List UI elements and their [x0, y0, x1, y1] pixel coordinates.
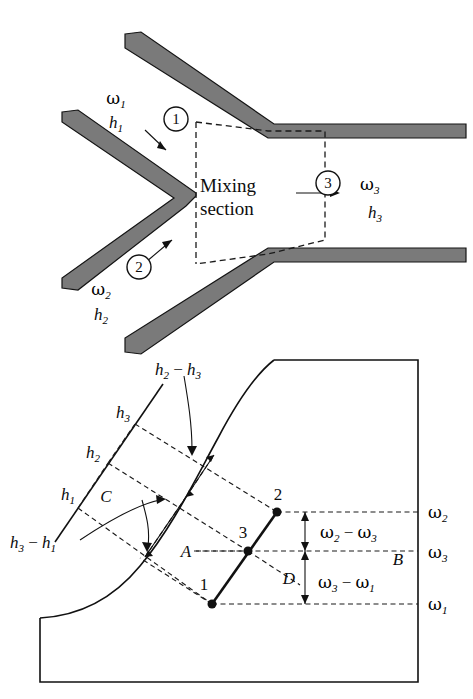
- mixing-duct-diagram: 1 2 3 ω1 h1 ω2 h2 ω3 h3: [62, 32, 466, 354]
- enthalpy-tick-h3: h3: [116, 403, 131, 424]
- state-point-2: [273, 508, 282, 517]
- station-marker-1-label: 1: [172, 111, 180, 127]
- omega-tick-2: ω2: [428, 502, 448, 524]
- h2-minus-h3-leader: [184, 376, 192, 450]
- omega3-minus-omega1-arrow: [301, 551, 309, 604]
- state-point-3: [244, 547, 253, 556]
- h3-minus-h1-leader: [80, 500, 160, 540]
- h2-minus-h3-indicator: [186, 455, 214, 497]
- omega2-minus-omega3-annotation: ω2 − ω3: [320, 522, 377, 544]
- h3-minus-h1-leader-arrow-down: [142, 542, 152, 552]
- state-point-2-label: 2: [274, 485, 283, 504]
- point-B-label: B: [393, 550, 404, 569]
- h3-minus-h1-leader-2: [142, 500, 149, 546]
- state-point-1-label: 1: [200, 575, 209, 594]
- enthalpy-tick-h1: h1: [61, 485, 75, 506]
- psychrometric-chart: 1 3 2 A B C D h1 h2 h3 ω2 ω3 ω1 ω2 − ω3: [10, 360, 448, 682]
- omega-tick-3: ω3: [428, 542, 448, 564]
- station-marker-3: 3: [316, 171, 340, 195]
- state-point-3-label: 3: [239, 523, 248, 542]
- h3-minus-h1-annotation: h3 − h1: [10, 533, 56, 554]
- omega2-minus-omega3-arrow: [301, 512, 309, 551]
- mixing-section-label-line1: Mixing: [200, 175, 256, 196]
- inlet-arrow-2: [146, 240, 172, 262]
- h2-minus-h3-leader-arrow: [187, 446, 197, 456]
- point-A-label: A: [180, 542, 192, 561]
- station-marker-3-label: 3: [324, 175, 332, 191]
- stream-2-enthalpy-label: h2: [94, 305, 109, 326]
- figure-root: 1 2 3 ω1 h1 ω2 h2 ω3 h3: [0, 0, 473, 699]
- station-marker-1: 1: [164, 107, 188, 131]
- inlet-arrow-1: [145, 130, 166, 150]
- omega3-minus-omega1-annotation: ω3 − ω1: [318, 572, 375, 594]
- stream-1-humidity-label: ω1: [106, 88, 125, 110]
- station-marker-2: 2: [127, 255, 151, 279]
- chart-frame: [40, 360, 418, 682]
- h2-minus-h3-annotation: h2 − h3: [155, 360, 202, 381]
- stream-2-humidity-label: ω2: [91, 279, 111, 301]
- omega-tick-1: ω1: [428, 594, 447, 616]
- lower-duct-wall: [125, 248, 466, 354]
- station-marker-2-label: 2: [135, 259, 143, 275]
- stream-3-humidity-label: ω3: [360, 174, 380, 196]
- mixing-section-label-line2: section: [200, 198, 254, 219]
- point-C-label: C: [100, 487, 112, 506]
- enthalpy-tick-h2: h2: [86, 443, 101, 464]
- state-point-1: [208, 600, 217, 609]
- point-D-label: D: [282, 569, 296, 588]
- stream-3-enthalpy-label: h3: [368, 203, 383, 224]
- stream-1-enthalpy-label: h1: [109, 113, 123, 134]
- enthalpy-line-h2: [108, 463, 248, 551]
